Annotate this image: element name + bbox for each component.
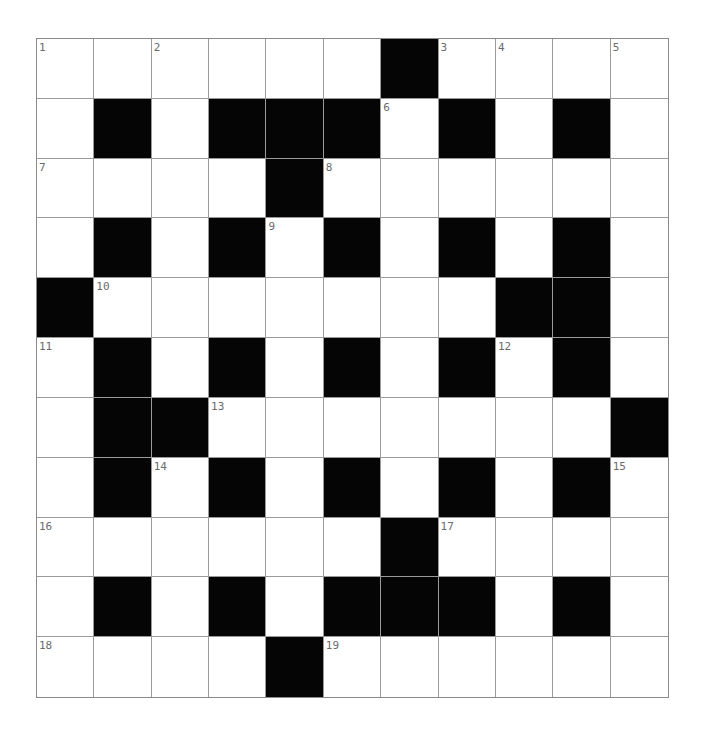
answer-cell[interactable] bbox=[324, 278, 381, 338]
answer-cell[interactable] bbox=[152, 159, 209, 219]
answer-cell[interactable] bbox=[381, 458, 438, 518]
answer-cell[interactable] bbox=[37, 218, 94, 278]
answer-cell[interactable]: 9 bbox=[266, 218, 323, 278]
answer-cell[interactable] bbox=[381, 218, 438, 278]
answer-cell[interactable] bbox=[611, 218, 668, 278]
answer-cell[interactable] bbox=[152, 577, 209, 637]
answer-cell[interactable]: 2 bbox=[152, 39, 209, 99]
answer-cell[interactable] bbox=[381, 278, 438, 338]
answer-cell[interactable]: 7 bbox=[37, 159, 94, 219]
answer-cell[interactable] bbox=[439, 637, 496, 697]
black-square bbox=[381, 518, 438, 578]
answer-cell[interactable]: 1 bbox=[37, 39, 94, 99]
answer-cell[interactable] bbox=[152, 637, 209, 697]
answer-cell[interactable] bbox=[37, 458, 94, 518]
clue-number: 11 bbox=[39, 341, 52, 352]
black-square bbox=[37, 278, 94, 338]
answer-cell[interactable] bbox=[381, 338, 438, 398]
answer-cell[interactable]: 14 bbox=[152, 458, 209, 518]
answer-cell[interactable]: 18 bbox=[37, 637, 94, 697]
clue-number: 15 bbox=[613, 461, 626, 472]
answer-cell[interactable] bbox=[266, 39, 323, 99]
answer-cell[interactable] bbox=[94, 159, 151, 219]
answer-cell[interactable] bbox=[611, 577, 668, 637]
black-square bbox=[553, 338, 610, 398]
answer-cell[interactable]: 10 bbox=[94, 278, 151, 338]
answer-cell[interactable] bbox=[266, 577, 323, 637]
answer-cell[interactable] bbox=[553, 159, 610, 219]
black-square bbox=[553, 577, 610, 637]
answer-cell[interactable] bbox=[94, 518, 151, 578]
black-square bbox=[209, 458, 266, 518]
clue-number: 16 bbox=[39, 521, 52, 532]
black-square bbox=[439, 338, 496, 398]
answer-cell[interactable] bbox=[611, 338, 668, 398]
answer-cell[interactable] bbox=[439, 398, 496, 458]
answer-cell[interactable] bbox=[381, 398, 438, 458]
answer-cell[interactable] bbox=[209, 637, 266, 697]
answer-cell[interactable] bbox=[266, 458, 323, 518]
answer-cell[interactable] bbox=[611, 637, 668, 697]
black-square bbox=[553, 458, 610, 518]
answer-cell[interactable] bbox=[611, 159, 668, 219]
answer-cell[interactable] bbox=[324, 398, 381, 458]
answer-cell[interactable] bbox=[381, 637, 438, 697]
answer-cell[interactable] bbox=[553, 398, 610, 458]
answer-cell[interactable] bbox=[439, 159, 496, 219]
answer-cell[interactable]: 12 bbox=[496, 338, 553, 398]
answer-cell[interactable]: 13 bbox=[209, 398, 266, 458]
answer-cell[interactable] bbox=[152, 338, 209, 398]
answer-cell[interactable] bbox=[496, 577, 553, 637]
answer-cell[interactable] bbox=[152, 218, 209, 278]
answer-cell[interactable] bbox=[553, 518, 610, 578]
answer-cell[interactable] bbox=[152, 518, 209, 578]
answer-cell[interactable]: 8 bbox=[324, 159, 381, 219]
answer-cell[interactable] bbox=[324, 39, 381, 99]
answer-cell[interactable] bbox=[37, 398, 94, 458]
answer-cell[interactable] bbox=[266, 278, 323, 338]
answer-cell[interactable] bbox=[37, 99, 94, 159]
answer-cell[interactable]: 5 bbox=[611, 39, 668, 99]
answer-cell[interactable] bbox=[553, 637, 610, 697]
black-square bbox=[381, 577, 438, 637]
answer-cell[interactable] bbox=[94, 637, 151, 697]
answer-cell[interactable] bbox=[496, 159, 553, 219]
answer-cell[interactable]: 16 bbox=[37, 518, 94, 578]
answer-cell[interactable] bbox=[611, 518, 668, 578]
answer-cell[interactable]: 3 bbox=[439, 39, 496, 99]
answer-cell[interactable] bbox=[266, 398, 323, 458]
black-square bbox=[553, 278, 610, 338]
clue-number: 9 bbox=[268, 221, 275, 232]
answer-cell[interactable]: 17 bbox=[439, 518, 496, 578]
black-square bbox=[209, 218, 266, 278]
answer-cell[interactable] bbox=[266, 338, 323, 398]
answer-cell[interactable]: 19 bbox=[324, 637, 381, 697]
answer-cell[interactable] bbox=[496, 218, 553, 278]
answer-cell[interactable] bbox=[37, 577, 94, 637]
answer-cell[interactable] bbox=[266, 518, 323, 578]
answer-cell[interactable]: 11 bbox=[37, 338, 94, 398]
answer-cell[interactable] bbox=[209, 278, 266, 338]
answer-cell[interactable] bbox=[94, 39, 151, 99]
answer-cell[interactable] bbox=[381, 159, 438, 219]
answer-cell[interactable] bbox=[496, 99, 553, 159]
answer-cell[interactable] bbox=[496, 637, 553, 697]
answer-cell[interactable] bbox=[152, 99, 209, 159]
answer-cell[interactable]: 15 bbox=[611, 458, 668, 518]
answer-cell[interactable] bbox=[611, 278, 668, 338]
black-square bbox=[439, 458, 496, 518]
answer-cell[interactable]: 6 bbox=[381, 99, 438, 159]
answer-cell[interactable] bbox=[209, 518, 266, 578]
answer-cell[interactable] bbox=[496, 518, 553, 578]
answer-cell[interactable] bbox=[496, 398, 553, 458]
answer-cell[interactable] bbox=[439, 278, 496, 338]
answer-cell[interactable] bbox=[611, 99, 668, 159]
answer-cell[interactable] bbox=[209, 159, 266, 219]
answer-cell[interactable]: 4 bbox=[496, 39, 553, 99]
answer-cell[interactable] bbox=[152, 278, 209, 338]
answer-cell[interactable] bbox=[324, 518, 381, 578]
answer-cell[interactable] bbox=[209, 39, 266, 99]
answer-cell[interactable] bbox=[553, 39, 610, 99]
clue-number: 12 bbox=[498, 341, 511, 352]
answer-cell[interactable] bbox=[496, 458, 553, 518]
